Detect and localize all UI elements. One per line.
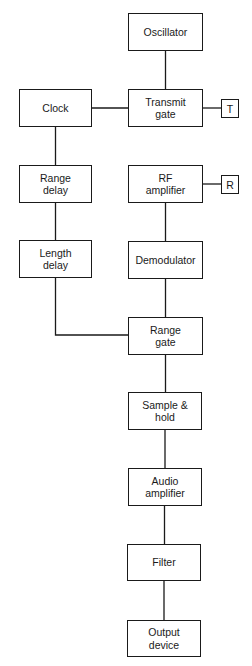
block-transmit-gate: Transmit gate (128, 89, 203, 127)
terminal-t: T (221, 99, 239, 118)
block-range-gate: Range gate (128, 317, 203, 355)
block-length-delay: Length delay (19, 240, 92, 278)
block-oscillator: Oscillator (128, 13, 203, 51)
block-audio-amplifier: Audio amplifier (128, 468, 202, 506)
block-demodulator: Demodulator (128, 241, 203, 279)
wire-length-delay-range-gate (56, 278, 129, 335)
block-clock: Clock (19, 89, 92, 127)
block-sample-hold: Sample & hold (128, 392, 202, 430)
block-rf-amplifier: RF amplifier (128, 165, 203, 203)
block-filter: Filter (127, 544, 201, 581)
block-range-delay: Range delay (19, 165, 92, 203)
block-output-device: Output device (127, 620, 201, 657)
terminal-r: R (221, 175, 239, 194)
